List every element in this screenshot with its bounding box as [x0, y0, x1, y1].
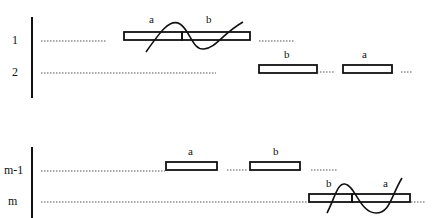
rowm1-segment-a — [166, 162, 217, 170]
rowm1-segment-b — [250, 162, 300, 170]
row-label-m: m — [8, 194, 18, 208]
row-label-1: 1 — [12, 33, 18, 47]
rowm-segment-a — [352, 194, 410, 202]
rowm-crossover-wave — [327, 178, 402, 213]
row1-segment-a — [124, 32, 182, 40]
row2-segment-a-label: a — [362, 48, 367, 60]
rowm1-segment-b-label: b — [273, 145, 279, 157]
row1-segment-b — [182, 32, 250, 40]
rowm-segment-b-label: b — [326, 177, 332, 189]
row-label-m-1: m-1 — [4, 163, 23, 177]
row2-segment-b-label: b — [284, 48, 290, 60]
row-label-2: 2 — [12, 65, 18, 79]
row2-segment-b — [259, 65, 317, 73]
row1-crossover-wave — [146, 22, 243, 52]
row2-segment-a — [343, 65, 392, 73]
rowm1-segment-a-label: a — [188, 145, 193, 157]
row1-segment-a-label: a — [149, 13, 154, 25]
row1-segment-b-label: b — [206, 13, 212, 25]
diagram-canvas: 1 2 m-1 m a b b a a b b a — [0, 0, 433, 218]
rowm-segment-b — [309, 194, 352, 202]
rowm-segment-a-label: a — [383, 177, 388, 189]
